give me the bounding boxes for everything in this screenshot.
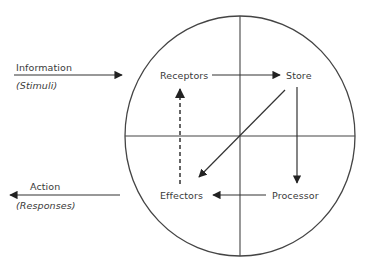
responses-label: (Responses) [16,200,76,211]
diagram-canvas: Information (Stimuli) Receptors Store Pr… [0,0,372,264]
diagram-graphics [0,0,372,264]
node-store: Store [286,70,312,81]
node-receptors: Receptors [160,70,208,81]
node-effectors: Effectors [160,190,203,201]
stimuli-label: (Stimuli) [16,80,57,91]
information-label: Information [16,62,72,73]
node-processor: Processor [272,190,319,201]
store-to-effectors-arrow [199,90,285,177]
action-label: Action [30,181,60,192]
